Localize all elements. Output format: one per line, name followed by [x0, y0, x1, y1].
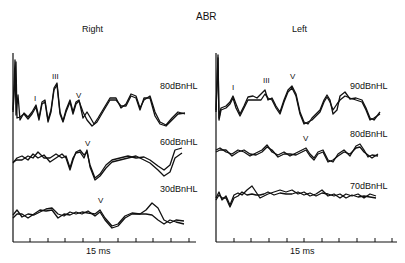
peak-label-r60-V: V: [85, 140, 90, 148]
waveform-70dBnHL: [216, 192, 376, 207]
chart-title: ABR: [196, 12, 217, 22]
waveform-80dBnHL: [216, 144, 378, 162]
x-axis-label-right-panel: 15 ms: [86, 247, 111, 256]
peak-label-r30-V: V: [98, 197, 103, 205]
peak-label-l80-V: V: [303, 135, 308, 143]
trace-label-left-70: 70dBnHL: [350, 182, 388, 191]
peak-label-l90-III: III: [263, 77, 270, 85]
panel-label-right: Right: [82, 25, 103, 34]
waveform-80dBnHL: [13, 60, 185, 125]
peak-label-l90-V: V: [290, 73, 295, 81]
trace-label-right-80: 80dBnHL: [160, 82, 198, 91]
waveform-90dBnHL: [216, 58, 380, 124]
waveform-30dBnHL: [13, 203, 184, 226]
peak-label-r80-III: III: [52, 73, 59, 81]
x-axis-label-left-panel: 15 ms: [290, 247, 315, 256]
peak-label-r80-I: I: [34, 95, 36, 103]
peak-label-l90-I: I: [232, 84, 234, 92]
panel-label-left: Left: [292, 25, 307, 34]
trace-label-right-30: 30dBnHL: [160, 185, 198, 194]
abr-plot: [0, 0, 405, 263]
trace-label-left-90: 90dBnHL: [350, 82, 388, 91]
axes: [13, 53, 397, 242]
peak-label-r80-V: V: [76, 92, 81, 100]
trace-label-left-80: 80dBnHL: [350, 130, 388, 139]
trace-label-right-60: 60dBnHL: [160, 138, 198, 147]
